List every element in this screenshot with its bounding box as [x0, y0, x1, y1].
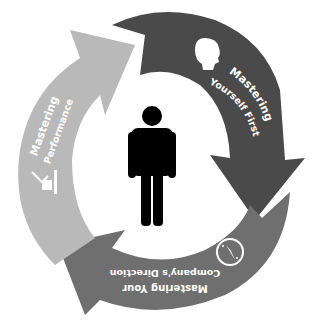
segment-direction-line1: Mastering Your — [122, 283, 208, 294]
person-icon — [128, 106, 176, 226]
segment-direction-line2: Company's Direction — [110, 268, 221, 279]
segment-performance: Mastering Performance — [18, 30, 135, 265]
cycle-diagram: Mastering Yourself First Mastering Your … — [0, 0, 326, 327]
segment-yourself: Mastering Yourself First — [112, 12, 305, 220]
